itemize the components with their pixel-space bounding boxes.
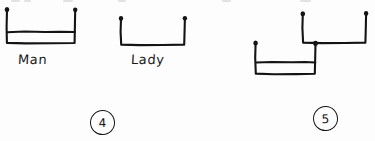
man-vessel-fill-line — [7, 32, 75, 33]
figure5-upper-vessel-right-nib — [364, 11, 368, 16]
lady-vessel-outline — [121, 18, 185, 45]
lady-vessel-right-nib — [183, 16, 187, 21]
figure-canvas: Man Lady 4 5 — [0, 0, 375, 141]
man-vessel-right-nib — [73, 7, 77, 12]
man-vessel-outline — [7, 10, 76, 44]
figure5-lower-vessel-right-nib — [313, 41, 318, 46]
figure5-lower-vessel-outline — [255, 43, 315, 74]
figure5-upper-vessel-left-nib — [301, 11, 306, 16]
lady-vessel — [119, 16, 187, 45]
figure5-upper-vessel — [301, 11, 369, 43]
scan-artifacts — [11, 0, 311, 2]
man-vessel-left-nib — [5, 7, 10, 12]
man-label: Man — [18, 52, 48, 67]
lady-vessel-left-nib — [119, 16, 123, 21]
figure5-lower-vessel-fill-line — [256, 62, 315, 63]
lady-label: Lady — [131, 52, 165, 67]
figure5-lower-vessel-left-nib — [253, 41, 258, 46]
figure5-upper-vessel-outline — [302, 14, 366, 43]
man-vessel — [5, 7, 78, 43]
figure5-lower-vessel — [253, 41, 318, 75]
